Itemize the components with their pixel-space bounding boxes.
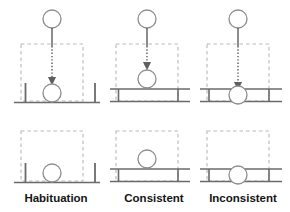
resting-ball	[138, 150, 156, 168]
resting-ball	[138, 70, 156, 88]
figure-background	[0, 0, 290, 212]
condition-label-row: Habituation Consistent Inconsistent	[0, 190, 290, 210]
stimulus-diagram	[0, 0, 290, 212]
falling-ball	[43, 10, 61, 28]
label-habituation: Habituation	[0, 190, 112, 210]
resting-ball	[43, 84, 61, 102]
label-consistent: Consistent	[112, 190, 196, 210]
resting-ball	[229, 86, 247, 104]
falling-ball	[138, 10, 156, 28]
falling-ball	[229, 10, 247, 28]
resting-ball	[43, 164, 61, 182]
resting-ball	[229, 166, 247, 184]
label-inconsistent: Inconsistent	[196, 190, 290, 210]
